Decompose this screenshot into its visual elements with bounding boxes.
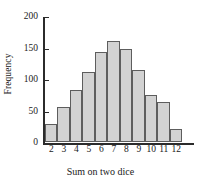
y-axis-tick-mark xyxy=(45,112,49,113)
x-axis-tick-label: 4 xyxy=(74,145,79,155)
bar xyxy=(95,52,108,142)
y-axis-tick-label: 200 xyxy=(24,12,38,22)
x-axis-title: Sum on two dice xyxy=(0,166,201,177)
x-axis-tick-label: 3 xyxy=(61,145,66,155)
y-axis-tick-label: 100 xyxy=(24,75,38,85)
y-axis-tick-mark xyxy=(45,80,49,81)
bar xyxy=(120,49,133,142)
y-axis-tick-mark xyxy=(45,17,49,18)
y-axis-title: Frequency xyxy=(0,0,14,148)
y-axis-tick-label: 50 xyxy=(29,107,39,117)
y-axis-tick-label: 150 xyxy=(24,44,38,54)
bar xyxy=(45,124,58,142)
bar xyxy=(57,107,70,142)
bar xyxy=(132,70,145,142)
x-axis-tick-labels: 23456789101112 xyxy=(43,145,195,159)
x-axis-tick-label: 5 xyxy=(86,145,91,155)
y-axis-tick-labels: 050100150200 xyxy=(14,0,40,150)
x-axis-tick-label: 11 xyxy=(159,145,168,155)
y-axis-tick-label: 0 xyxy=(33,138,38,148)
x-axis-tick-label: 9 xyxy=(136,145,141,155)
bar xyxy=(170,129,183,142)
x-axis-tick-label: 6 xyxy=(99,145,104,155)
x-axis-tick-label: 10 xyxy=(147,145,157,155)
y-axis-tick-mark xyxy=(45,49,49,50)
histogram-chart: Frequency 050100150200 23456789101112 Su… xyxy=(0,0,201,192)
bar xyxy=(107,41,120,142)
x-axis-tick-label: 2 xyxy=(49,145,54,155)
bar xyxy=(145,95,158,142)
bar xyxy=(70,90,83,142)
x-axis-tick-label: 12 xyxy=(172,145,182,155)
bar xyxy=(157,102,170,142)
bar xyxy=(82,72,95,142)
x-axis-tick-label: 8 xyxy=(124,145,129,155)
plot-area xyxy=(43,17,193,143)
x-axis-tick-label: 7 xyxy=(111,145,116,155)
y-axis-title-text: Frequency xyxy=(2,54,12,95)
